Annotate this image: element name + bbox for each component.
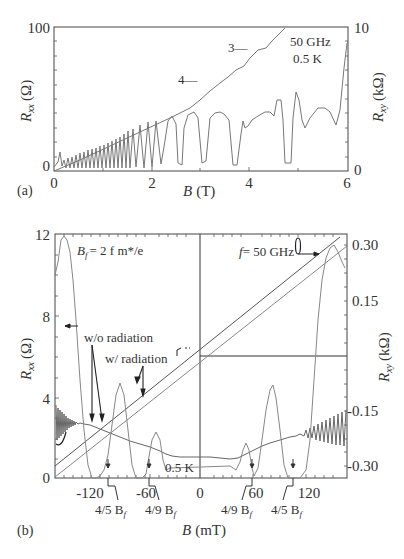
panel-a-plateau-3-label: 3— (228, 40, 249, 55)
panel-b-x-tick-0: 0 (196, 485, 204, 501)
panel-a-x-tick-4: 4 (245, 175, 253, 191)
panel-b-y-left-tick-12: 12 (35, 227, 50, 243)
panel-a-x-label: B(T) (183, 183, 215, 200)
panel-a-x-tick-0: 0 (50, 175, 58, 191)
panel-a-y-right-bottom: 0 (354, 162, 362, 178)
panel-b-y-right-tick-neg030: -0.30 (347, 458, 378, 474)
panel-b-bf-formula: Bf= 2 f m*/e (77, 243, 144, 260)
panel-a-rxy-curve (54, 28, 285, 171)
panel-a-y-right-top: 10 (354, 20, 369, 36)
panel-b-marker-label-pos-4-9: 4/9 Bf (221, 502, 254, 519)
figure: 100 0 10 0 0 2 4 6 B(T) Rxx(Ω) Rxy(kΩ) (… (0, 0, 404, 559)
panel-a-label: (a) (17, 183, 33, 199)
arrow-down-icon (291, 464, 295, 468)
panel-a-plateau-4-label: 4— (178, 72, 199, 87)
panel-a-y-left-bottom: 0 (43, 158, 51, 174)
panel-b-rxx-without-radiation (56, 405, 346, 459)
panel-a-y-left-label: Rxx(Ω) (18, 80, 36, 123)
panel-b: 12 8 4 0 0.30 0.15 -0.15 -0.30 -120 -60 … (17, 227, 394, 539)
panel-a-y-right-label: Rxy(kΩ) (370, 72, 388, 123)
panel-b-w-radiation-label: w/ radiation (105, 351, 168, 366)
panel-a-x-tick-2: 2 (148, 175, 156, 191)
panel-b-marker-label-neg-4-5: 4/5 Bf (95, 502, 128, 519)
panel-b-y-left-label: Rxx(Ω) (18, 338, 36, 381)
panel-b-y-left-tick-0: 0 (43, 470, 51, 486)
panel-b-x-tick-60: 60 (249, 485, 264, 501)
panel-a-x-tick-6: 6 (343, 175, 351, 191)
panel-a-temperature: 0.5 K (293, 51, 323, 66)
arrow-down-icon (250, 464, 254, 468)
panel-b-y-right-tick-neg015: -0.15 (347, 403, 378, 419)
panel-b-x-tick-120: 120 (298, 485, 321, 501)
panel-a-frequency: 50 GHz (290, 34, 331, 49)
panel-b-y-left-tick-4: 4 (43, 391, 51, 407)
panel-b-x-label: B(mT) (182, 522, 226, 539)
arrow-down-icon (106, 464, 110, 468)
panel-a-y-left-top: 100 (28, 20, 51, 36)
panel-b-rxy-without-radiation (55, 237, 340, 466)
panel-b-rxy-ellipse-marker (296, 238, 301, 254)
panel-a: 100 0 10 0 0 2 4 6 B(T) Rxx(Ω) Rxy(kΩ) (… (17, 20, 388, 200)
panel-b-wo-radiation-label: w/o radiation (84, 330, 153, 345)
panel-b-marker-label-pos-4-5: 4/5 Bf (271, 502, 304, 519)
panel-b-label: (b) (17, 523, 34, 539)
arrow-right-icon (298, 252, 319, 256)
panel-b-temperature: 0.5 K (165, 460, 195, 475)
panel-b-frequency: f= 50 GHz (239, 244, 294, 259)
panel-b-y-left-tick-8: 8 (43, 309, 51, 325)
panel-b-y-right-tick-030: 0.30 (352, 237, 378, 253)
panel-b-y-right-tick-015: 0.15 (352, 293, 378, 309)
panel-b-offset-indicator (177, 348, 190, 356)
panel-b-y-right-label: Rxy(kΩ) (376, 332, 394, 383)
panel-b-x-tick-neg60: -60 (136, 485, 156, 501)
panel-b-x-tick-neg120: -120 (76, 485, 104, 501)
panel-b-marker-label-neg-4-9: 4/9 Bf (145, 502, 178, 519)
panel-b-rxy-with-radiation (55, 246, 347, 477)
